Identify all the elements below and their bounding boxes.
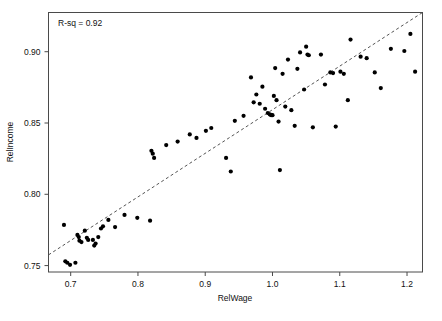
data-point <box>348 37 352 41</box>
data-point <box>229 169 233 173</box>
data-point <box>263 107 267 111</box>
data-point <box>258 102 262 106</box>
data-point <box>151 152 155 156</box>
plot-background <box>0 0 442 321</box>
data-point <box>233 119 237 123</box>
data-point <box>254 92 258 96</box>
data-point <box>272 94 276 98</box>
x-axis-title: RelWage <box>218 293 253 303</box>
y-tick-label: 0.90 <box>24 47 41 57</box>
data-point <box>62 223 66 227</box>
data-point <box>148 219 152 223</box>
data-point <box>373 70 377 74</box>
data-point <box>113 225 117 229</box>
data-point <box>278 168 282 172</box>
data-point <box>79 240 83 244</box>
x-tick-label: 1.1 <box>334 279 346 289</box>
data-point <box>280 72 284 76</box>
r-squared-annotation: R-sq = 0.92 <box>58 18 102 28</box>
x-tick-label: 0.8 <box>132 279 144 289</box>
data-point <box>307 53 311 57</box>
data-point <box>289 108 293 112</box>
data-point <box>331 71 335 75</box>
data-point <box>260 85 264 89</box>
x-tick-label: 0.7 <box>65 279 77 289</box>
data-point <box>86 238 90 242</box>
data-point <box>342 72 346 76</box>
y-tick-label: 0.75 <box>24 261 41 271</box>
data-point <box>359 55 363 59</box>
data-point <box>334 124 338 128</box>
data-point <box>283 105 287 109</box>
data-point <box>77 235 81 239</box>
data-point <box>273 66 277 70</box>
data-point <box>106 218 110 222</box>
x-tick-label: 0.9 <box>199 279 211 289</box>
data-point <box>402 49 406 53</box>
data-point <box>319 52 323 56</box>
data-point <box>164 143 168 147</box>
data-point <box>73 261 77 265</box>
data-point <box>241 114 245 118</box>
data-point <box>176 139 180 143</box>
data-point <box>224 156 228 160</box>
data-point <box>304 45 308 49</box>
data-point <box>274 98 278 102</box>
data-point <box>249 75 253 79</box>
y-tick-label: 0.85 <box>24 118 41 128</box>
y-axis-title: RelIncome <box>5 121 15 162</box>
data-point <box>91 238 95 242</box>
y-tick-label: 0.80 <box>24 189 41 199</box>
data-point <box>413 70 417 74</box>
data-point <box>209 126 213 130</box>
data-point <box>135 216 139 220</box>
data-point <box>152 156 156 160</box>
data-point <box>379 86 383 90</box>
data-point <box>408 32 412 36</box>
data-point <box>122 213 126 217</box>
data-point <box>270 113 274 117</box>
data-point <box>276 119 280 123</box>
data-point <box>188 132 192 136</box>
scatter-plot-figure: 0.70.80.91.01.11.2 0.750.800.850.90 R-sq… <box>0 0 442 321</box>
data-point <box>346 98 350 102</box>
data-point <box>194 136 198 140</box>
data-point <box>96 235 100 239</box>
data-point <box>323 82 327 86</box>
data-point <box>295 67 299 71</box>
data-point <box>68 263 72 267</box>
data-point <box>252 100 256 104</box>
data-point <box>311 125 315 129</box>
x-tick-label: 1.0 <box>267 279 279 289</box>
data-point <box>286 57 290 61</box>
data-point <box>365 56 369 60</box>
data-point <box>293 124 297 128</box>
data-point <box>298 50 302 54</box>
data-point <box>93 241 97 245</box>
data-point <box>83 229 87 233</box>
data-point <box>302 87 306 91</box>
data-point <box>389 47 393 51</box>
data-point <box>204 129 208 133</box>
data-point <box>101 224 105 228</box>
plot-canvas: 0.70.80.91.01.11.2 0.750.800.850.90 R-sq… <box>0 0 442 321</box>
x-tick-label: 1.2 <box>401 279 413 289</box>
